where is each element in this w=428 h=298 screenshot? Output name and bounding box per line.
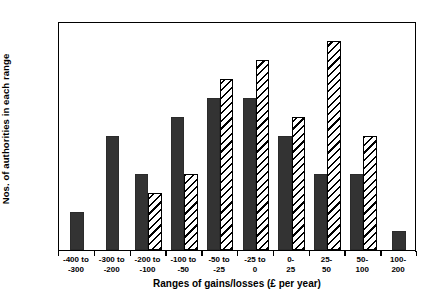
y-axis-title: Nos. of authorities in each range	[0, 0, 12, 258]
bar-group	[202, 23, 242, 250]
bar-hatched	[220, 79, 233, 250]
bar-group	[310, 23, 350, 250]
bar-solid	[314, 174, 327, 250]
bar-solid	[135, 174, 148, 250]
bar-solid	[350, 174, 363, 250]
bar-solid	[207, 98, 220, 250]
bar-group	[131, 23, 171, 250]
bar-group	[166, 23, 206, 250]
x-axis-title: Ranges of gains/losses (£ per year)	[58, 278, 416, 289]
bar-solid	[278, 136, 291, 250]
bar-solid	[243, 98, 256, 250]
bar-solid	[70, 212, 83, 250]
bar-group	[345, 23, 385, 250]
bar-solid	[106, 136, 119, 250]
bar-solid	[392, 231, 405, 250]
plot-area	[58, 23, 416, 251]
bar-group	[238, 23, 278, 250]
x-tick-label: 100- 200	[374, 255, 422, 274]
bar-hatched	[184, 174, 197, 250]
histogram-chart: Nos. of authorities in each range 024681…	[0, 0, 428, 298]
bar-hatched	[292, 117, 305, 250]
bar-hatched	[327, 41, 340, 250]
bar-hatched	[256, 60, 269, 250]
bar-hatched	[148, 193, 161, 250]
bar-solid	[171, 117, 184, 250]
bar-group	[274, 23, 314, 250]
bar-group-container	[59, 23, 416, 250]
bar-group	[381, 23, 428, 250]
bar-hatched	[363, 136, 376, 250]
